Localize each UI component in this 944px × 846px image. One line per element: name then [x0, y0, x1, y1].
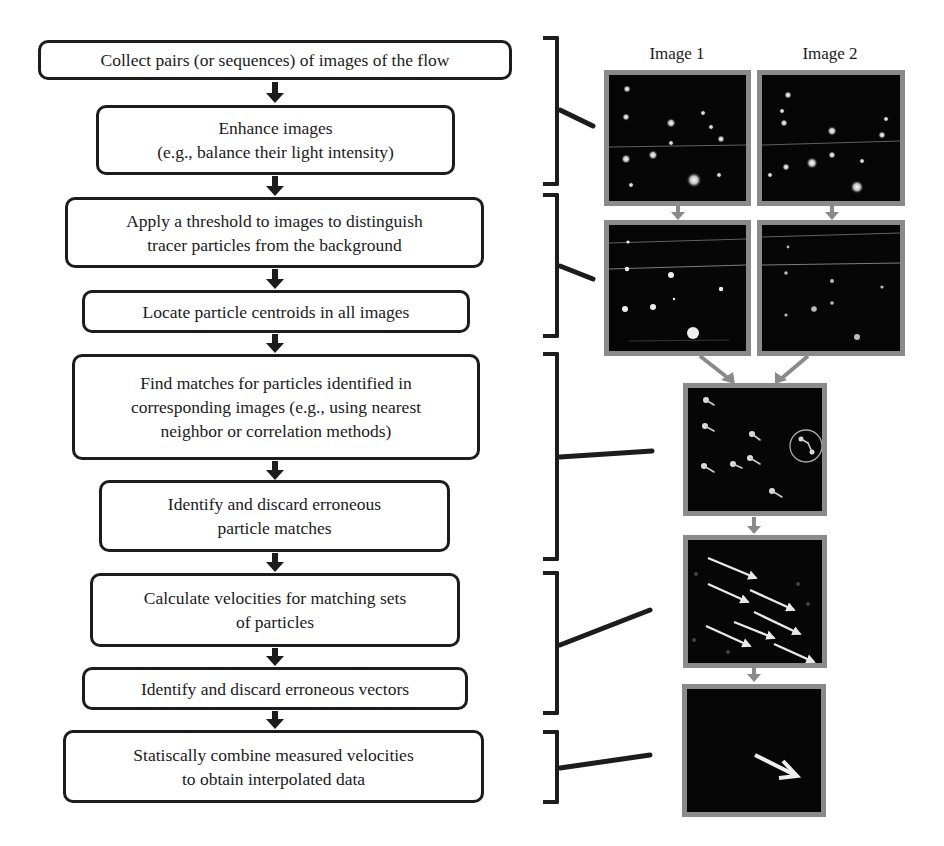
step-enhance-images: Enhance images (e.g., balance their ligh… — [96, 105, 455, 175]
step-text: Statiscally combine measured velocities — [133, 743, 413, 767]
step-discard-matches: Identify and discard erroneous particle … — [99, 480, 450, 552]
interpolated-vector-image — [682, 684, 826, 817]
threshold-image-2 — [757, 220, 905, 356]
step-find-matches: Find matches for particles identified in… — [72, 354, 480, 460]
particle-field-icon — [762, 225, 900, 351]
particle-field-icon — [609, 225, 746, 351]
step-text: tracer particles from the background — [147, 233, 402, 257]
step-text: Apply a threshold to images to distingui… — [126, 209, 423, 233]
step-collect-images: Collect pairs (or sequences) of images o… — [38, 40, 512, 80]
particle-field-icon — [762, 75, 900, 201]
group-bracket — [543, 352, 559, 561]
group-bracket — [543, 571, 559, 715]
group-bracket — [543, 193, 559, 338]
step-text: Enhance images — [218, 116, 332, 140]
particle-matches-icon — [688, 388, 822, 511]
step-combine-velocities: Statiscally combine measured velocities … — [63, 730, 484, 803]
matched-particles-image — [683, 383, 827, 516]
step-text: Identify and discard erroneous vectors — [141, 677, 409, 701]
step-apply-threshold: Apply a threshold to images to distingui… — [65, 197, 484, 268]
group-bracket — [543, 730, 559, 804]
step-text: (e.g., balance their light intensity) — [157, 140, 394, 164]
step-text: to obtain interpolated data — [182, 767, 365, 791]
step-text: Calculate velocities for matching sets — [144, 586, 406, 610]
step-text: Find matches for particles identified in — [140, 371, 412, 395]
image-2-label: Image 2 — [760, 44, 900, 64]
group-bracket — [543, 36, 559, 186]
step-text: Identify and discard erroneous — [168, 492, 381, 516]
image-1-label: Image 1 — [607, 44, 747, 64]
mean-vector-icon — [687, 689, 821, 812]
raw-image-1 — [604, 70, 751, 206]
step-text: neighbor or correlation methods) — [161, 419, 392, 443]
velocity-vectors-image — [683, 535, 827, 668]
step-calculate-velocities: Calculate velocities for matching sets o… — [90, 573, 460, 647]
step-text: corresponding images (e.g., using neares… — [131, 395, 421, 419]
step-discard-vectors: Identify and discard erroneous vectors — [82, 667, 468, 710]
step-text: Collect pairs (or sequences) of images o… — [101, 48, 450, 72]
particle-field-icon — [609, 75, 746, 201]
threshold-image-1 — [604, 220, 751, 356]
step-text: of particles — [236, 610, 314, 634]
step-locate-centroids: Locate particle centroids in all images — [82, 290, 470, 333]
raw-image-2 — [757, 70, 905, 206]
step-text: particle matches — [217, 516, 331, 540]
velocity-vectors-icon — [688, 540, 822, 663]
step-text: Locate particle centroids in all images — [143, 300, 410, 324]
